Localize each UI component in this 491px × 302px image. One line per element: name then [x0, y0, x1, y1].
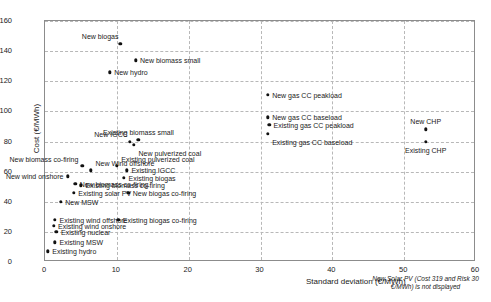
- y-axis-tick-label: 140: [0, 46, 12, 55]
- y-axis-tick-label: 20: [0, 226, 12, 235]
- footnote-line-2: €/MWh) is not displayed: [391, 283, 460, 290]
- y-axis-tick-label: 40: [0, 196, 12, 205]
- data-point: [122, 176, 125, 179]
- y-axis-tick-label: 80: [0, 136, 12, 145]
- data-point: [267, 123, 270, 126]
- data-point: [55, 230, 58, 233]
- data-point-label: New MSW: [65, 198, 98, 205]
- gridline-vertical: [261, 21, 262, 260]
- gridline-horizontal: [45, 172, 474, 173]
- data-point-label: New gas CC peakload: [272, 91, 342, 98]
- data-point: [134, 58, 137, 61]
- gridline-horizontal: [45, 81, 474, 82]
- data-point-label: Existing gas CC peakload: [274, 121, 354, 128]
- data-point-label: New biogas co-firing: [133, 189, 196, 196]
- gridline-vertical: [404, 21, 405, 260]
- data-point: [266, 132, 269, 135]
- chart-footnote: New Solar PV (Cost 319 and Risk 30 €/MWh…: [360, 275, 491, 291]
- gridline-horizontal: [45, 142, 474, 143]
- gridline-horizontal: [45, 111, 474, 112]
- data-point-label: New biomass co-firing: [9, 155, 78, 162]
- y-axis-tick-label: 60: [0, 166, 12, 175]
- data-point: [119, 42, 122, 45]
- data-point: [53, 218, 56, 221]
- data-point: [72, 191, 75, 194]
- data-point-label: Existing IGCC: [131, 167, 175, 174]
- data-point-label: Existing nuclear: [61, 228, 110, 235]
- data-point-label: New Wind offshore: [95, 160, 154, 167]
- data-point: [52, 224, 55, 227]
- data-point: [128, 140, 131, 143]
- footnote-line-1: New Solar PV (Cost 319 and Risk 30: [372, 275, 479, 282]
- x-axis-tick-label: 60: [455, 265, 491, 274]
- data-point-label: Existing biomass small: [103, 128, 174, 135]
- x-axis-tick-label: 10: [96, 265, 136, 274]
- data-point-label: New wind onshore: [6, 173, 64, 180]
- data-point-label: Existing biomass co-firing: [85, 182, 164, 189]
- y-axis-tick-label: 100: [0, 106, 12, 115]
- data-point: [266, 116, 269, 119]
- data-point-label: Existing biogas co-firing: [123, 216, 197, 223]
- data-point: [424, 128, 427, 131]
- data-point-label: New gas CC baseload: [272, 114, 342, 121]
- data-point: [108, 71, 111, 74]
- data-point-label: New biogas: [82, 32, 119, 39]
- data-point: [424, 140, 427, 143]
- y-axis-tick-label: 0: [0, 257, 12, 266]
- data-point: [66, 174, 69, 177]
- y-axis-title: Cost (€/MWh): [32, 69, 41, 189]
- x-axis-tick-label: 20: [168, 265, 208, 274]
- gridline-horizontal: [45, 202, 474, 203]
- data-point: [46, 250, 49, 253]
- y-axis-tick-label: 120: [0, 76, 12, 85]
- x-axis-tick-label: 30: [240, 265, 280, 274]
- data-point-label: New biomass small: [140, 57, 200, 64]
- data-point-label: Existing hydro: [52, 248, 96, 255]
- data-point-label: Existing MSW: [60, 239, 104, 246]
- data-point: [266, 93, 269, 96]
- plot-area: New biogasNew biomass smallNew hydroNew …: [44, 20, 475, 261]
- x-axis-tick-label: 0: [24, 265, 64, 274]
- x-axis-tick-label: 50: [383, 265, 423, 274]
- data-point: [132, 143, 135, 146]
- data-point-label: New CHP: [410, 118, 441, 125]
- data-point-label: Existing CHP: [405, 146, 446, 153]
- data-point: [53, 241, 56, 244]
- data-point: [59, 200, 62, 203]
- gridline-horizontal: [45, 51, 474, 52]
- scatter-chart: Cost (€/MWh) New biogasNew biomass small…: [0, 0, 491, 302]
- data-point: [81, 164, 84, 167]
- y-axis-tick-label: 160: [0, 16, 12, 25]
- data-point: [73, 182, 76, 185]
- data-point-label: Existing solar PV: [78, 189, 131, 196]
- x-axis-tick-label: 40: [311, 265, 351, 274]
- data-point-label: New hydro: [114, 69, 147, 76]
- gridline-horizontal: [45, 21, 474, 22]
- data-point-label: Existing gas CC baseload: [272, 138, 352, 145]
